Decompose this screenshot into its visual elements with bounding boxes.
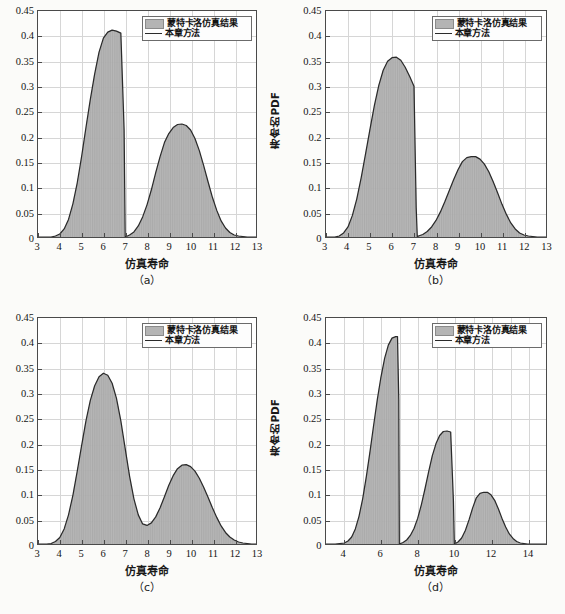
panel-caption-c: （c） — [133, 578, 161, 594]
x-tick — [126, 233, 127, 237]
x-tick-label: 10 — [186, 548, 197, 559]
plot-area-c — [37, 317, 257, 545]
x-tick-label: 5 — [78, 548, 83, 559]
x-tick — [459, 233, 460, 237]
x-axis-title: 仿真寿命 — [414, 255, 458, 271]
legend-line-icon — [145, 340, 162, 341]
y-tick — [326, 521, 330, 522]
x-tick — [326, 233, 327, 237]
x-tick-label: 9 — [166, 241, 171, 252]
x-tick — [529, 540, 530, 544]
x-tick — [214, 233, 215, 237]
y-tick — [326, 62, 330, 63]
legend-a[interactable]: 蒙特卡洛仿真结果本章方法 — [142, 16, 252, 41]
y-tick-label: 0.2 — [1, 131, 34, 142]
legend-entry-line[interactable]: 本章方法 — [145, 336, 248, 345]
y-tick-label: 0.2 — [289, 131, 322, 142]
y-tick-label: 0.05 — [289, 207, 322, 218]
y-tick — [38, 521, 42, 522]
x-tick-label: 8 — [144, 241, 149, 252]
x-tick-label: 5 — [366, 241, 371, 252]
y-tick — [38, 369, 42, 370]
panel-a: 34567891011121300.050.10.150.20.250.30.3… — [0, 0, 283, 307]
x-tick-label: 14 — [523, 548, 534, 559]
y-tick-label: 0.25 — [1, 106, 34, 117]
y-tick — [326, 163, 330, 164]
y-tick-label: 0.45 — [289, 5, 322, 16]
legend-d[interactable]: 蒙特卡洛仿真结果本章方法 — [432, 323, 542, 348]
y-tick-label: 0.3 — [289, 388, 322, 399]
x-tick — [503, 233, 504, 237]
y-tick — [326, 188, 330, 189]
x-tick — [525, 233, 526, 237]
y-tick-label: 0.05 — [1, 514, 34, 525]
x-tick-label: 9 — [455, 241, 460, 252]
x-tick — [236, 540, 237, 544]
series-layer-a — [38, 11, 256, 237]
y-tick-label: 0.25 — [289, 106, 322, 117]
y-tick-label: 0.4 — [289, 30, 322, 41]
y-tick-label: 0.45 — [1, 312, 34, 323]
y-tick — [326, 369, 330, 370]
panel-caption-b: （b） — [421, 271, 450, 287]
x-tick-label: 11 — [208, 241, 218, 252]
x-tick — [38, 233, 39, 237]
legend-swatch-icon — [435, 326, 454, 336]
y-tick — [38, 87, 42, 88]
legend-c[interactable]: 蒙特卡洛仿真结果本章方法 — [142, 323, 252, 348]
legend-entry-line[interactable]: 本章方法 — [435, 29, 538, 38]
y-tick-label: 0 — [289, 233, 322, 244]
x-tick-label: 8 — [433, 241, 438, 252]
x-tick — [392, 233, 393, 237]
legend-entry-line[interactable]: 本章方法 — [435, 336, 538, 345]
y-tick-label: 0.2 — [289, 438, 322, 449]
x-tick — [148, 540, 149, 544]
y-tick — [38, 495, 42, 496]
y-tick-label: 0.15 — [289, 464, 322, 475]
x-tick-label: 4 — [344, 241, 349, 252]
x-tick-label: 7 — [122, 548, 127, 559]
x-tick-label: 13 — [252, 548, 263, 559]
x-tick-label: 4 — [56, 241, 61, 252]
x-tick-label: 6 — [377, 548, 382, 559]
x-tick — [192, 540, 193, 544]
x-tick — [60, 540, 61, 544]
panel-caption-d: （d） — [421, 578, 450, 594]
x-tick — [170, 540, 171, 544]
y-tick-label: 0.15 — [1, 464, 34, 475]
plot-area-b — [325, 10, 547, 238]
legend-swatch-icon — [145, 326, 164, 336]
x-tick — [418, 540, 419, 544]
y-axis-title: 寿命的PDF — [267, 92, 282, 149]
y-tick — [38, 138, 42, 139]
y-tick-label: 0.1 — [289, 182, 322, 193]
y-tick — [38, 62, 42, 63]
x-tick — [381, 540, 382, 544]
panel-d: 46810121400.050.10.150.20.250.30.350.40.… — [283, 307, 565, 614]
y-tick — [38, 445, 42, 446]
y-tick — [38, 163, 42, 164]
x-tick-label: 12 — [230, 241, 241, 252]
x-tick-label: 3 — [34, 241, 39, 252]
y-tick — [326, 470, 330, 471]
y-tick — [38, 36, 42, 37]
legend-entry-line[interactable]: 本章方法 — [145, 29, 248, 38]
x-axis-title: 仿真寿命 — [125, 562, 169, 578]
series-layer-d — [326, 318, 546, 544]
x-tick — [492, 540, 493, 544]
plot-area-a — [37, 10, 257, 238]
x-tick — [170, 233, 171, 237]
y-tick-label: 0.3 — [1, 81, 34, 92]
y-tick-label: 0.35 — [289, 362, 322, 373]
x-tick — [192, 233, 193, 237]
y-tick-label: 0.35 — [1, 55, 34, 66]
y-tick — [326, 419, 330, 420]
x-tick — [104, 540, 105, 544]
x-tick-label: 10 — [449, 548, 460, 559]
y-tick-label: 0.3 — [289, 81, 322, 92]
legend-b[interactable]: 蒙特卡洛仿真结果本章方法 — [432, 16, 542, 41]
panel-caption-a: （a） — [133, 271, 162, 287]
x-tick-label: 6 — [388, 241, 393, 252]
x-tick — [104, 233, 105, 237]
y-tick — [326, 214, 330, 215]
